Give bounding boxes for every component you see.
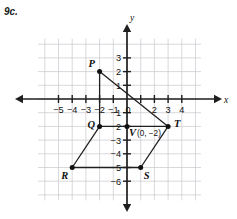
y-tick-label: −3 xyxy=(111,136,121,146)
x-axis-arrow-right xyxy=(214,95,222,103)
point-P xyxy=(97,69,102,74)
x-tick-label: 3 xyxy=(166,105,171,115)
point-label-T: T xyxy=(174,118,181,129)
point-R xyxy=(70,165,75,170)
y-axis-label: y xyxy=(129,13,135,23)
y-tick-label: −4 xyxy=(111,149,121,159)
y-tick-label: −6 xyxy=(111,177,121,187)
y-axis-tick-labels: 321−1−2−3−4−5−6 xyxy=(111,53,121,186)
point-label-Q: Q xyxy=(88,119,96,130)
point-Q xyxy=(97,124,102,129)
y-tick-label: −1 xyxy=(111,108,121,118)
y-tick-label: 2 xyxy=(116,67,121,77)
coordinate-plane-figure: −5−4−3−2−10234 321−1−2−3−4−5−6 x y PTSRQ… xyxy=(0,0,237,219)
x-tick-label: 4 xyxy=(179,105,184,115)
coordinate-plane-svg: −5−4−3−2−10234 321−1−2−3−4−5−6 x y PTSRQ… xyxy=(0,0,237,219)
x-tick-label: −4 xyxy=(67,105,77,115)
annotation-v-coordinate: (0, −2) xyxy=(137,129,161,138)
point-label-P: P xyxy=(89,58,96,69)
x-tick-label: −3 xyxy=(81,105,91,115)
y-axis-arrow-bottom xyxy=(123,204,131,212)
annotations: (0, −2) xyxy=(137,129,161,138)
point-label-S: S xyxy=(144,170,150,181)
point-label-R: R xyxy=(60,170,68,181)
x-tick-label: 0 xyxy=(126,105,131,115)
x-tick-label: −5 xyxy=(53,105,63,115)
y-axis-arrow-top xyxy=(123,24,131,32)
x-axis-arrow-left xyxy=(15,95,23,103)
x-axis-label: x xyxy=(223,95,229,105)
point-T xyxy=(166,124,171,129)
point-label-V: V xyxy=(129,127,137,138)
point-S xyxy=(138,165,143,170)
x-tick-label: 2 xyxy=(152,105,157,115)
y-tick-label: 3 xyxy=(116,53,121,63)
